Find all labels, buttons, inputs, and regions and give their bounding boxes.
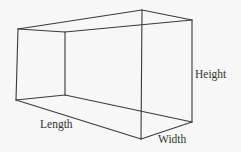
- edge-bottom-inner-to-right: [65, 95, 192, 122]
- length-label: Length: [40, 119, 73, 131]
- edge-front-left-vertical: [16, 29, 18, 100]
- height-label: Height: [195, 69, 226, 81]
- edge-top-back-to-top-right: [142, 10, 192, 20]
- width-label: Width: [158, 134, 186, 146]
- edge-back-inner-top: [65, 20, 192, 32]
- edge-length: [16, 100, 141, 139]
- edge-middle-vertical: [141, 10, 142, 139]
- edge-bottom-left-to-inner: [16, 95, 65, 100]
- edge-top-left-to-inner: [18, 29, 65, 32]
